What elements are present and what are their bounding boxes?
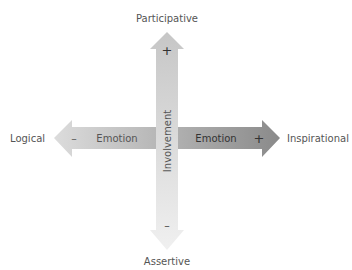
logical-minus-sign: – [71,132,77,145]
logical-label: Logical [10,133,45,144]
participative-label: Participative [136,13,198,24]
quadrant-diagram: + – – + Emotion Emotion Involvement Part… [0,0,352,270]
assertive-minus-sign: – [164,219,170,232]
emotion-right-label: Emotion [195,133,236,144]
involvement-label: Involvement [162,110,173,172]
participative-plus-sign: + [162,43,173,58]
assertive-label: Assertive [144,256,190,267]
emotion-left-label: Emotion [96,133,137,144]
inspirational-label: Inspirational [287,133,349,144]
inspirational-plus-sign: + [254,131,265,146]
